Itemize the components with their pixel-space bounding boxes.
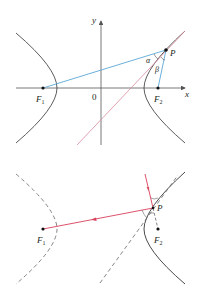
f1-label: F1 <box>36 235 46 246</box>
reflected-ray-arrow-icon <box>91 218 97 221</box>
point-f1 <box>41 86 44 89</box>
f1-label: F1 <box>35 94 45 105</box>
alpha-angle-arc <box>154 54 158 59</box>
hyperbola-reflection-figure: x y 0 α β F1 F2 P <box>0 0 199 290</box>
right-hyperbola-branch <box>144 31 185 143</box>
f2-label: F2 <box>153 235 163 246</box>
p-label: P <box>156 203 163 213</box>
p-label: P <box>169 48 176 58</box>
point-f2 <box>156 227 159 230</box>
point-p <box>164 48 168 52</box>
point-p <box>152 207 154 209</box>
beta-label: β <box>154 65 159 74</box>
bottom-diagram: F1 F2 P <box>16 172 185 284</box>
right-hyperbola-branch <box>144 172 185 284</box>
incoming-angle-arc <box>151 198 158 199</box>
alpha-label: α <box>146 56 151 65</box>
reflected-angle-arc <box>142 210 146 217</box>
y-axis-label: y <box>91 15 96 25</box>
top-diagram: x y 0 α β F1 F2 P <box>16 15 189 145</box>
point-f2 <box>156 86 159 89</box>
incoming-ray <box>145 174 153 208</box>
left-dashed-branch <box>16 174 57 284</box>
f2-label: F2 <box>153 94 163 105</box>
point-f1 <box>41 227 44 230</box>
reflected-ray <box>43 208 153 229</box>
x-axis-label: x <box>184 89 189 99</box>
origin-label: 0 <box>92 92 97 102</box>
